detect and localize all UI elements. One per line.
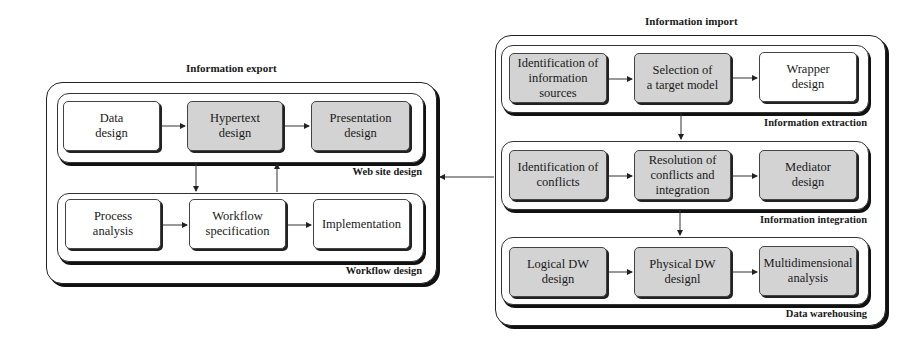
workflow-design-label: Workflow design [320,265,422,276]
node-physical-dw-design[interactable]: Physical DW designl [634,247,731,297]
node-multidimensional-analysis[interactable]: Multidimensional analysis [759,246,857,296]
node-label: Implementation [322,217,401,232]
node-label: Identification of information sources [518,56,599,101]
information-integration-label: Information integration [730,214,867,225]
node-wrapper-design[interactable]: Wrapper design [759,52,857,102]
node-logical-dw-design[interactable]: Logical DW design [509,247,607,297]
node-process-analysis[interactable]: Process analysis [65,199,161,249]
node-label: Physical DW designl [649,257,715,287]
node-label: Mediator design [785,160,831,190]
node-hypertext-design[interactable]: Hypertext design [187,101,283,151]
node-workflow-specification[interactable]: Workflow specification [189,199,286,249]
node-label: Resolution of conflicts and integration [649,153,717,198]
node-label: Multidimensional analysis [764,256,853,286]
node-label: Selection of a target model [647,63,718,93]
node-identification-of-conflicts[interactable]: Identification of conflicts [509,150,607,200]
information-import-title: Information import [645,15,738,27]
node-mediator-design[interactable]: Mediator design [759,150,857,200]
node-label: Logical DW design [527,257,589,287]
node-label: Hypertext design [210,111,260,141]
node-label: Workflow specification [206,209,270,239]
node-label: Identification of conflicts [518,160,599,190]
node-label: Data design [95,111,128,141]
node-label: Presentation design [330,111,392,141]
node-data-design[interactable]: Data design [63,101,160,151]
web-site-design-label: Web site design [330,166,422,177]
node-presentation-design[interactable]: Presentation design [311,101,410,151]
information-extraction-label: Information extraction [740,117,867,128]
node-resolution-of-conflicts[interactable]: Resolution of conflicts and integration [634,150,731,200]
node-implementation[interactable]: Implementation [313,199,410,249]
node-identification-of-information-sources[interactable]: Identification of information sources [509,53,607,103]
node-selection-of-target-model[interactable]: Selection of a target model [634,53,731,103]
node-label: Process analysis [93,209,133,239]
node-label: Wrapper design [786,62,829,92]
data-warehousing-label: Data warehousing [760,308,867,319]
information-export-title: Information export [186,62,277,74]
